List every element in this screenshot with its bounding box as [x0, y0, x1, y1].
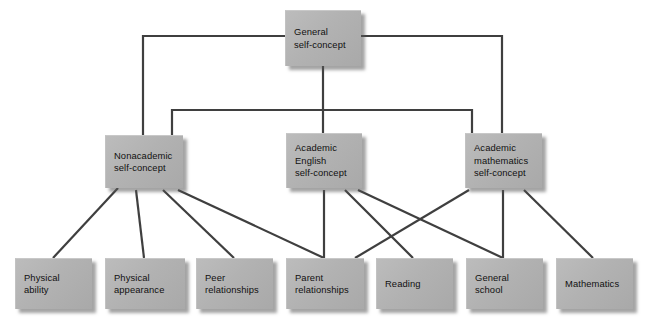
node-general-school[interactable]: General school: [466, 258, 543, 309]
node-label-line: Academic: [295, 142, 337, 154]
node-label-line: self-concept: [294, 39, 346, 51]
node-label-line: Reading: [385, 278, 421, 290]
node-label-line: appearance: [114, 284, 164, 296]
node-label-line: Physical: [114, 272, 150, 284]
node-label-line: Physical: [24, 272, 60, 284]
node-reading[interactable]: Reading: [376, 258, 453, 309]
node-label-line: Academic: [474, 142, 516, 154]
node-layer: General self-concept Nonacademic self-co…: [0, 0, 656, 329]
node-label-line: mathematics: [474, 155, 528, 167]
node-mathematics[interactable]: Mathematics: [556, 258, 633, 309]
node-academic-mathematics-self-concept[interactable]: Academic mathematics self-concept: [465, 133, 542, 188]
node-physical-ability[interactable]: Physical ability: [15, 258, 92, 309]
node-label-line: self-concept: [295, 167, 347, 179]
node-general-self-concept[interactable]: General self-concept: [285, 10, 361, 66]
node-label-line: relationships: [205, 284, 259, 296]
node-peer-relationships[interactable]: Peer relationships: [196, 258, 273, 309]
node-label-line: Mathematics: [565, 278, 619, 290]
node-label-line: self-concept: [114, 162, 166, 174]
node-label-line: relationships: [295, 284, 349, 296]
node-label-line: General: [294, 26, 328, 38]
node-label-line: school: [475, 284, 503, 296]
node-label-line: Parent: [295, 272, 323, 284]
node-parent-relationships[interactable]: Parent relationships: [286, 258, 364, 309]
node-label-line: Peer: [205, 272, 225, 284]
node-physical-appearance[interactable]: Physical appearance: [105, 258, 185, 309]
node-label-line: English: [295, 155, 326, 167]
node-label-line: ability: [24, 284, 49, 296]
self-concept-hierarchy-diagram: General self-concept Nonacademic self-co…: [0, 0, 656, 329]
node-nonacademic-self-concept[interactable]: Nonacademic self-concept: [105, 135, 183, 188]
node-academic-english-self-concept[interactable]: Academic English self-concept: [286, 133, 362, 188]
node-label-line: General: [475, 272, 509, 284]
node-label-line: self-concept: [474, 167, 526, 179]
node-label-line: Nonacademic: [114, 150, 172, 162]
